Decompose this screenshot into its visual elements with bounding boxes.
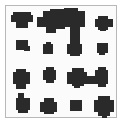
blob-r4c2 (40, 98, 57, 114)
blob-r1c4 (95, 16, 113, 31)
blob-r2c4 (97, 43, 108, 55)
blob-r4c1 (16, 93, 30, 113)
blob-r3c1 (13, 69, 30, 89)
blob-r2c3 (67, 34, 82, 56)
blob-r2c1 (16, 40, 30, 51)
blob-r4c4 (94, 96, 114, 118)
blob-r1c2-c3-merged (37, 8, 85, 34)
blob-r4c3 (70, 100, 82, 111)
blob-pattern (0, 0, 122, 124)
blob-r3c3-c4-merged (67, 67, 108, 88)
blob-r1c1 (11, 12, 33, 28)
blob-r2c2 (43, 42, 53, 54)
blob-r3c2 (43, 67, 56, 83)
